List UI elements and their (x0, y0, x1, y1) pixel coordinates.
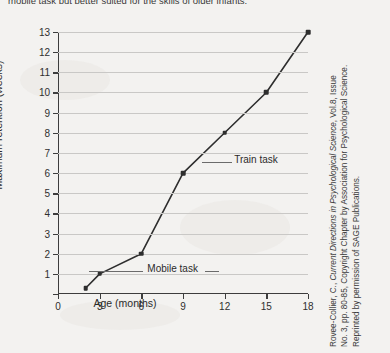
y-axis-tick-label: 7 (44, 147, 50, 158)
caption-text: mobile task but better suited for the sk… (8, 0, 308, 6)
y-axis-tick-label: 3 (44, 228, 50, 239)
annotation-leader-line (205, 271, 219, 272)
y-axis-tick-label: 8 (44, 127, 50, 138)
y-axis-tick-label: 10 (39, 87, 50, 98)
x-axis-tick-label: 12 (219, 301, 230, 312)
y-axis-tick (53, 32, 58, 33)
x-axis-tick (58, 294, 59, 299)
y-axis-tick-label: 13 (39, 27, 50, 38)
data-point-marker (139, 251, 144, 256)
gridline (58, 234, 308, 235)
figure-page: mobile task but better suited for the sk… (0, 0, 390, 353)
y-axis-tick (53, 153, 58, 154)
x-axis-label: Age (months) (93, 297, 156, 309)
y-axis-tick (53, 193, 58, 194)
gridline (58, 133, 308, 134)
gridline (58, 72, 308, 73)
x-axis-tick-label: 18 (302, 301, 313, 312)
y-axis-tick-label: 6 (44, 168, 50, 179)
y-axis-label: Maximum retention (weeks) (0, 61, 4, 190)
y-axis-tick (53, 173, 58, 174)
gridline (58, 193, 308, 194)
data-point-marker (83, 286, 88, 291)
data-point-marker (264, 90, 269, 95)
y-axis-tick (53, 274, 58, 275)
x-axis-tick (266, 294, 267, 299)
data-point-marker (181, 171, 186, 176)
annotation-mobile-task: Mobile task (147, 263, 198, 274)
gridline (58, 254, 308, 255)
y-axis-tick (53, 52, 58, 53)
credit-text: Rovee-Collier, C., Current Directions in… (328, 2, 362, 347)
gridline (58, 113, 308, 114)
credit-line-2: No. 3, pp. 80-85, Copyright Chapter by A… (339, 2, 350, 347)
y-axis-tick (53, 213, 58, 214)
y-axis-tick (53, 72, 58, 73)
data-point-marker (97, 272, 102, 277)
x-axis-tick-label: 9 (180, 301, 186, 312)
y-axis-tick (53, 92, 58, 93)
y-axis-tick-label: 5 (44, 188, 50, 199)
y-axis-tick-label: 12 (39, 47, 50, 58)
y-axis-tick (53, 254, 58, 255)
gridline (58, 274, 308, 275)
x-axis-tick-label: 0 (55, 301, 61, 312)
x-axis-tick (308, 294, 309, 299)
gridline (58, 92, 308, 93)
y-axis-tick-label: 2 (44, 248, 50, 259)
x-axis-tick (183, 294, 184, 299)
y-axis-tick (53, 113, 58, 114)
y-axis-line (58, 32, 59, 294)
gridline (58, 213, 308, 214)
annotation-leader-line (202, 162, 232, 163)
annotation-leader-line (89, 271, 144, 272)
gridline (58, 32, 308, 33)
x-axis-tick (225, 294, 226, 299)
y-axis-tick-label: 11 (40, 67, 50, 78)
credit-line-1: Rovee-Collier, C., Current Directions in… (328, 2, 339, 347)
y-axis-tick (53, 133, 58, 134)
annotation-train-task: Train task (234, 154, 278, 165)
x-axis-tick-label: 15 (261, 301, 272, 312)
y-axis-tick (53, 234, 58, 235)
y-axis-tick-label: 4 (44, 208, 50, 219)
data-point-marker (222, 130, 227, 135)
gridline (58, 52, 308, 53)
y-axis-tick-label: 9 (44, 107, 50, 118)
credit-line-3: Reprinted by permission of SAGE Publicat… (351, 2, 362, 347)
data-point-marker (306, 30, 311, 35)
y-axis-tick-label: 1 (44, 268, 50, 279)
